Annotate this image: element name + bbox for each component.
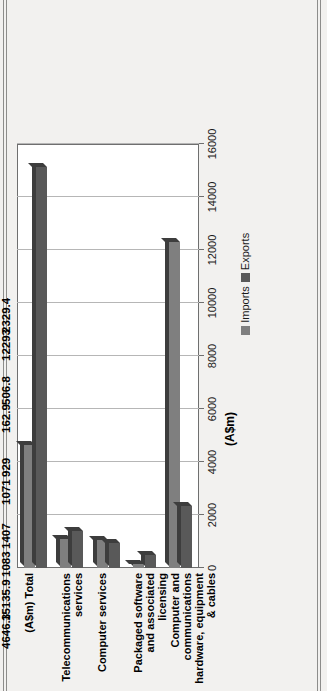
bar-face: [133, 564, 144, 568]
legend-label: Exports: [239, 233, 251, 270]
axis-tick: [199, 567, 204, 568]
legend-swatch: [241, 326, 250, 335]
bar-top-face: [32, 163, 36, 566]
axis-tick: [199, 408, 204, 409]
axis-tick-label: 8000: [206, 344, 218, 368]
axis-tick-label: 10000: [206, 288, 218, 319]
axis-tick-label: 4000: [206, 450, 218, 474]
category-label: (A$m) Total: [23, 573, 35, 691]
bar-exports: [181, 506, 192, 568]
rotated-chart-wrapper: 0200040006000800010000120001400016000 (A…: [0, 0, 327, 691]
bar-face: [109, 543, 120, 568]
value-label: 15135.9: [0, 579, 12, 621]
bar-top-face: [105, 539, 109, 566]
bar-face: [145, 555, 156, 568]
value-label: 12293: [0, 329, 12, 361]
bar-top-face: [20, 441, 24, 566]
bar-face: [181, 506, 192, 568]
bar-side-face: [173, 502, 192, 506]
value-label: 162.9: [0, 404, 12, 433]
legend-label: Imports: [239, 286, 251, 323]
category-label: Computer and communications hardware, eq…: [169, 573, 217, 691]
bar-top-face: [93, 536, 97, 566]
value-label: 1071: [0, 479, 12, 505]
axis-tick: [199, 302, 204, 303]
axis-tick-label: 2000: [206, 503, 218, 527]
legend-swatch: [241, 273, 250, 282]
bar-imports: [133, 564, 144, 568]
bar-exports: [109, 543, 120, 568]
legend-item: Exports: [239, 233, 251, 282]
chart-legend: ImportsExports: [239, 233, 251, 335]
axis-unit-label: (A$m): [223, 412, 237, 446]
category-label: Computer services: [96, 573, 108, 691]
axis-tick: [199, 143, 204, 144]
value-label: 2329.4: [0, 298, 12, 333]
legend-item: Imports: [239, 286, 251, 335]
bar-exports: [72, 531, 83, 568]
category-label: Telecommunications services: [60, 573, 84, 691]
category-label: Packaged software and associated licensi…: [132, 573, 168, 691]
value-label: 1083: [0, 551, 12, 577]
axis-tick-label: 12000: [206, 235, 218, 266]
axis-tick-label: 0: [206, 565, 218, 571]
bar-face: [36, 167, 47, 568]
axis-tick: [199, 461, 204, 462]
bar-chart: 0200040006000800010000120001400016000 (A…: [0, 0, 327, 691]
value-label: 506.8: [0, 376, 12, 405]
axis-tick-label: 14000: [206, 182, 218, 213]
axis-tick: [199, 249, 204, 250]
bar-top-face: [56, 535, 60, 566]
bar-face: [72, 531, 83, 568]
bar-exports: [36, 167, 47, 568]
value-label: 1407: [0, 523, 12, 549]
bar-side-face: [137, 551, 156, 555]
bar-exports: [145, 555, 156, 568]
axis-tick: [199, 514, 204, 515]
bar-top-face: [68, 527, 72, 566]
bar-top-face: [165, 238, 169, 566]
value-label: 929: [0, 458, 12, 477]
axis-tick-label: 16000: [206, 129, 218, 160]
axis-tick: [199, 355, 204, 356]
bar-side-face: [28, 163, 47, 167]
bar-top-face: [177, 502, 181, 566]
axis-tick-label: 6000: [206, 397, 218, 421]
bar-side-face: [64, 527, 83, 531]
gridline: [17, 143, 199, 144]
bar-side-face: [161, 238, 180, 242]
axis-tick: [199, 196, 204, 197]
